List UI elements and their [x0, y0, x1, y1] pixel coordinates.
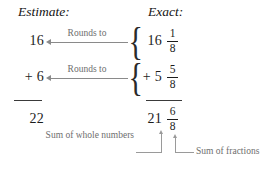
numerator: 5	[170, 64, 176, 77]
leader-arrow-fractions-icon	[173, 134, 177, 138]
leader-line-whole-horizontal	[136, 152, 162, 153]
numerator: 6	[170, 106, 176, 119]
exact-sum-whole: 21	[138, 111, 162, 127]
exact-term-2-whole: + 5	[134, 69, 162, 85]
leader-line-fractions-vertical	[175, 138, 176, 153]
column-heading-exact: Exact:	[148, 4, 183, 20]
numerator: 1	[170, 28, 176, 41]
leader-arrow-whole-icon	[159, 130, 163, 134]
exact-term-1-whole: 16	[140, 33, 162, 49]
rounds-to-label-1: Rounds to	[68, 28, 107, 38]
exact-sum-rule	[146, 100, 182, 101]
leader-line-whole-vertical	[161, 134, 162, 153]
denominator: 8	[170, 78, 176, 91]
exact-sum-fraction: 6 8	[166, 106, 179, 132]
rounds-to-label-2: Rounds to	[68, 64, 107, 74]
arrow-left-head-icon	[46, 75, 51, 81]
denominator: 8	[170, 42, 176, 55]
arrow-shaft	[51, 42, 128, 43]
annotation-sum-of-whole-numbers: Sum of whole numbers	[22, 130, 134, 141]
estimate-term-1: 16	[10, 33, 44, 49]
estimate-sum: 22	[10, 111, 44, 127]
estimate-term-2: + 6	[4, 69, 44, 85]
arrow-left-head-icon	[46, 39, 51, 45]
arrow-shaft	[51, 78, 128, 79]
column-heading-estimate: Estimate:	[18, 4, 70, 20]
exact-term-1-fraction: 1 8	[166, 28, 179, 54]
exact-term-2-fraction: 5 8	[166, 64, 179, 90]
estimation-worksheet: Estimate: Exact: 16 + 6 22 Rounds to Rou…	[0, 0, 270, 176]
annotation-sum-of-fractions: Sum of fractions	[196, 146, 259, 157]
denominator: 8	[170, 120, 176, 133]
leader-line-fractions-horizontal	[176, 152, 194, 153]
estimate-sum-rule	[14, 100, 42, 101]
